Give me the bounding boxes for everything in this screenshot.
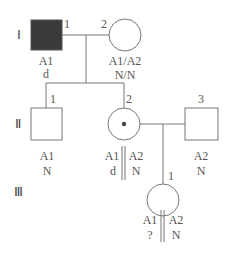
genotype-label: A1/A2 (109, 55, 142, 67)
carrier-dot-icon (122, 122, 126, 126)
individual-number: 1 (168, 170, 174, 182)
individual-number: 1 (64, 18, 70, 30)
allele-right: N (172, 229, 181, 241)
genotype-label: A1 (39, 55, 54, 67)
haplotype-left: A1 (105, 150, 120, 162)
individual-I1-affected-male (31, 20, 62, 50)
allele-left: ? (147, 229, 152, 241)
generation-label-I: Ⅰ (17, 29, 21, 41)
individual-number: 1 (50, 93, 56, 105)
allele-label: N/N (115, 69, 136, 81)
haplotype-right: A2 (129, 150, 144, 162)
allele-right: N (132, 165, 141, 177)
individual-number: 2 (126, 93, 132, 105)
generation-label-III: Ⅲ (14, 186, 23, 198)
allele-left: d (110, 165, 116, 177)
individual-II1-male (31, 108, 62, 140)
genotype-label: A2 (194, 150, 209, 162)
haplotype-right: A2 (169, 214, 184, 226)
allele-label: d (43, 68, 49, 80)
generation-label-II: Ⅱ (15, 118, 21, 130)
individual-I2-female (109, 19, 141, 51)
individual-number: 2 (101, 18, 107, 30)
individual-II3-male (185, 108, 218, 140)
individual-number: 3 (198, 93, 204, 105)
pedigree-lines (0, 0, 229, 255)
haplotype-left: A1 (143, 214, 158, 226)
allele-label: N (197, 165, 206, 177)
genotype-label: A1 (40, 150, 55, 162)
individual-III1-female (147, 184, 179, 216)
allele-label: N (43, 165, 52, 177)
